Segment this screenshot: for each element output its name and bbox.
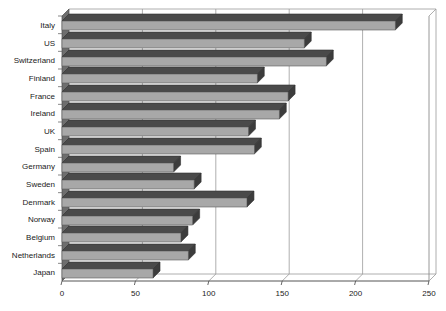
- bar: [62, 138, 261, 154]
- bar: [62, 173, 201, 189]
- category-label: France: [30, 92, 55, 101]
- x-tick-label: 250: [422, 289, 436, 298]
- category-label: Spain: [35, 145, 55, 154]
- bar: [62, 156, 181, 172]
- category-label: US: [44, 39, 55, 48]
- bar: [62, 244, 195, 260]
- bar: [62, 85, 295, 101]
- bar: [62, 103, 286, 119]
- category-label: Switzerland: [14, 56, 55, 65]
- category-label: Ireland: [31, 109, 55, 118]
- bar: [62, 67, 264, 83]
- category-label: Germany: [22, 162, 55, 171]
- bar: [62, 209, 200, 225]
- x-tick-label: 0: [60, 289, 65, 298]
- x-tick-label: 100: [202, 289, 216, 298]
- bar: [62, 120, 255, 136]
- category-label: Belgium: [26, 233, 55, 242]
- category-label: UK: [44, 127, 56, 136]
- bar: [62, 32, 311, 48]
- bar: [62, 50, 333, 66]
- bar: [62, 14, 402, 30]
- category-label: Norway: [28, 215, 55, 224]
- bar-chart: 050100150200250 ItalyUSSwitzerlandFinlan…: [0, 0, 446, 311]
- category-label: Italy: [40, 21, 55, 30]
- x-tick-label: 150: [276, 289, 290, 298]
- chart-canvas: 050100150200250 ItalyUSSwitzerlandFinlan…: [0, 0, 446, 311]
- category-label: Netherlands: [12, 251, 55, 260]
- category-label: Finland: [29, 74, 55, 83]
- x-tick-label: 200: [349, 289, 363, 298]
- category-label: Japan: [33, 268, 55, 277]
- bar: [62, 226, 188, 242]
- category-label: Sweden: [26, 180, 55, 189]
- bar: [62, 191, 254, 207]
- x-tick-label: 50: [131, 289, 140, 298]
- bar: [62, 262, 160, 278]
- category-label: Denmark: [23, 198, 56, 207]
